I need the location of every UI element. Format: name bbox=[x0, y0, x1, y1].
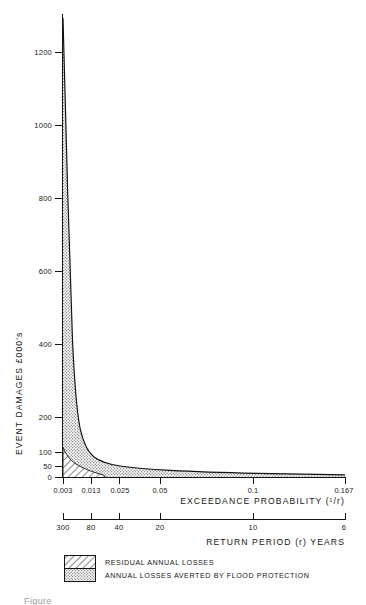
figure-caption: Figure bbox=[24, 596, 52, 605]
r-tick-label-40: 40 bbox=[114, 523, 123, 532]
y-tick-label-1000: 1000 bbox=[34, 121, 52, 130]
x-axis-title: EXCEEDANCE PROBABILITY (¹/r) bbox=[180, 496, 345, 506]
x-tick-label-0.025: 0.025 bbox=[111, 486, 130, 495]
figure-container: 0 50 100 200 400 600 800 1000 1200 EVENT… bbox=[0, 0, 366, 605]
x-tick-label-0.167: 0.167 bbox=[335, 486, 354, 495]
return-period-tick-group: 300 80 40 20 10 6 bbox=[56, 513, 346, 532]
y-tick-label-200: 200 bbox=[39, 413, 52, 422]
plot-area bbox=[63, 18, 345, 478]
chart-svg: 0 50 100 200 400 600 800 1000 1200 EVENT… bbox=[0, 0, 366, 605]
r-tick-label-300: 300 bbox=[56, 523, 70, 532]
y-tick-label-800: 800 bbox=[39, 194, 52, 203]
r-tick-label-80: 80 bbox=[86, 523, 95, 532]
r-tick-label-10: 10 bbox=[248, 523, 257, 532]
y-tick-label-600: 600 bbox=[39, 267, 52, 276]
y-tick-label-50: 50 bbox=[43, 462, 52, 471]
series-area-averted bbox=[63, 18, 345, 478]
damage-curve bbox=[63, 18, 345, 475]
x-tick-label-0.003: 0.003 bbox=[54, 486, 73, 495]
r-tick-label-6: 6 bbox=[342, 523, 347, 532]
legend-label-averted: ANNUAL LOSSES AVERTED BY FLOOD PROTECTIO… bbox=[105, 571, 309, 580]
y-tick-label-100: 100 bbox=[39, 448, 52, 457]
x-tick-group: 0.003 0.013 0.025 0.05 0.1 0.167 bbox=[54, 478, 354, 496]
legend-swatch-averted bbox=[65, 569, 96, 582]
y-tick-label-1200: 1200 bbox=[34, 48, 52, 57]
legend-label-residual: RESIDUAL ANNUAL LOSSES bbox=[105, 558, 214, 567]
legend: RESIDUAL ANNUAL LOSSES ANNUAL LOSSES AVE… bbox=[65, 556, 310, 582]
legend-swatch-residual bbox=[65, 556, 96, 569]
y-tick-label-400: 400 bbox=[39, 340, 52, 349]
x-tick-label-0.05: 0.05 bbox=[153, 486, 168, 495]
x-tick-label-0.1: 0.1 bbox=[248, 486, 259, 495]
return-period-axis-title: RETURN PERIOD (r) YEARS bbox=[206, 537, 345, 547]
x-tick-label-0.013: 0.013 bbox=[82, 486, 101, 495]
y-tick-group: 0 50 100 200 400 600 800 1000 1200 bbox=[34, 48, 62, 482]
y-axis-title: EVENT DAMAGES £000's bbox=[14, 332, 24, 455]
y-tick-label-0: 0 bbox=[48, 473, 52, 482]
r-tick-label-20: 20 bbox=[155, 523, 164, 532]
